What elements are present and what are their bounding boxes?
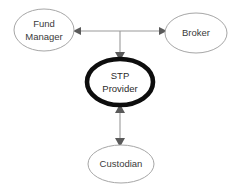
node-stp-provider-label-line1: STP xyxy=(111,70,129,81)
node-fund-manager-label-line2: Manager xyxy=(25,31,63,42)
node-stp-provider[interactable]: STP Provider xyxy=(87,59,153,105)
connector-stp-custodian xyxy=(115,104,125,147)
node-stp-provider-label-line2: Provider xyxy=(102,83,137,94)
node-custodian-label-line1: Custodian xyxy=(100,158,143,169)
connector-hub-feed-to-stp xyxy=(115,31,125,61)
node-fund-manager[interactable]: Fund Manager xyxy=(14,9,74,51)
node-broker[interactable]: Broker xyxy=(165,13,227,53)
diagram-canvas: Fund Manager Broker STP Provider Custodi… xyxy=(0,0,236,189)
node-fund-manager-label-line1: Fund xyxy=(33,18,55,29)
node-custodian[interactable]: Custodian xyxy=(88,145,154,183)
node-broker-label-line1: Broker xyxy=(182,27,210,38)
diagram-svg: Fund Manager Broker STP Provider Custodi… xyxy=(0,0,236,189)
